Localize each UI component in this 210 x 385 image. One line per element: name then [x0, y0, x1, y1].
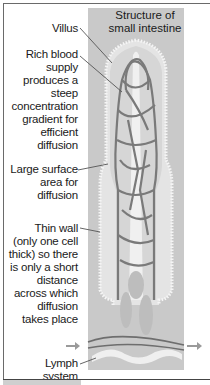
outflow-arrow-icon	[187, 342, 202, 350]
label-blood-supply: Rich blood supply produces a steep conce…	[12, 48, 78, 152]
diagram-title: Structure of small intestine	[105, 9, 185, 35]
label-villus: Villus	[52, 22, 78, 35]
inflow-arrow-icon	[66, 342, 80, 350]
label-thin-wall: Thin wall (only one cell thick) so there…	[9, 222, 78, 326]
label-surface-area: Large surface area for diffusion	[10, 163, 78, 202]
bottom-tab	[3, 380, 81, 385]
